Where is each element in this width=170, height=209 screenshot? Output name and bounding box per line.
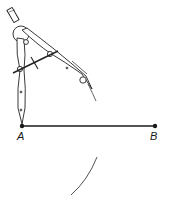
lower-arc [71, 157, 97, 195]
upper-arc [88, 84, 96, 101]
construction-svg [0, 0, 170, 209]
point-b-label: B [150, 131, 157, 142]
point-b [153, 124, 157, 128]
compass-icon [7, 7, 92, 124]
point-a [20, 124, 24, 128]
diagram-canvas: A B [0, 0, 170, 209]
point-a-label: A [17, 131, 24, 142]
